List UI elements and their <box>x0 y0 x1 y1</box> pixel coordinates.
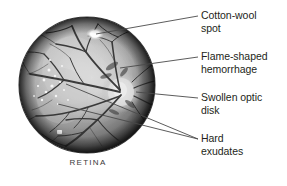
label-flame-shaped-hemorrhage: Flame-shaped hemorrhage <box>201 50 287 75</box>
label-cotton-wool-spot: Cotton-wool spot <box>201 9 287 34</box>
retina-figure: Cotton-wool spot Flame-shaped hemorrhage… <box>0 0 287 186</box>
figure-caption-retina: RETINA <box>20 158 156 167</box>
label-swollen-optic-disk: Swollen optic disk <box>201 91 287 116</box>
retina-globe <box>16 17 158 153</box>
label-hard-exudates: Hard exudates <box>201 132 287 157</box>
